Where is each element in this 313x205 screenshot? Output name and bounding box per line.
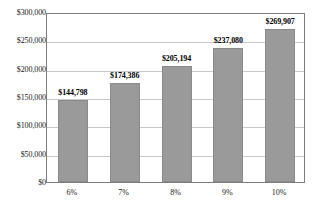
- bar-group: $144,798: [58, 14, 88, 182]
- bar[interactable]: [162, 66, 192, 182]
- bar-group: $205,194: [162, 14, 192, 182]
- y-axis-tick-label: $200,000: [2, 66, 46, 74]
- x-axis-tick-label: 8%: [150, 189, 202, 197]
- bar[interactable]: [265, 29, 295, 182]
- bars-layer: $144,798$174,386$205,194$237,080$269,907: [47, 14, 304, 182]
- bar-value-label: $269,907: [251, 18, 309, 26]
- bar-value-label: $237,080: [199, 37, 257, 45]
- x-axis-tick-label: 9%: [201, 189, 253, 197]
- x-axis-tick-label: 7%: [98, 189, 150, 197]
- y-axis-tick-label: $0: [2, 179, 46, 187]
- plot-area: $144,798$174,386$205,194$237,080$269,907: [46, 13, 305, 183]
- y-axis-tick-label: $50,000: [2, 151, 46, 159]
- y-axis-tick-label: $150,000: [2, 94, 46, 102]
- bar[interactable]: [213, 48, 243, 182]
- bar-chart: $0$50,000$100,000$150,000$200,000$250,00…: [0, 0, 313, 205]
- x-axis: 6%7%8%9%10%: [46, 186, 305, 204]
- bar-group: $237,080: [213, 14, 243, 182]
- y-axis-tick-label: $100,000: [2, 122, 46, 130]
- bar-group: $174,386: [110, 14, 140, 182]
- bar-value-label: $174,386: [96, 72, 154, 80]
- y-axis-tick-label: $250,000: [2, 37, 46, 45]
- bar-value-label: $144,798: [44, 89, 102, 97]
- bar-group: $269,907: [265, 14, 295, 182]
- bar[interactable]: [58, 100, 88, 182]
- bar-value-label: $205,194: [148, 55, 206, 63]
- y-axis: $0$50,000$100,000$150,000$200,000$250,00…: [0, 0, 46, 205]
- x-axis-tick-label: 6%: [46, 189, 98, 197]
- bar[interactable]: [110, 83, 140, 182]
- y-axis-tick-label: $300,000: [2, 9, 46, 17]
- x-axis-tick-label: 10%: [253, 189, 305, 197]
